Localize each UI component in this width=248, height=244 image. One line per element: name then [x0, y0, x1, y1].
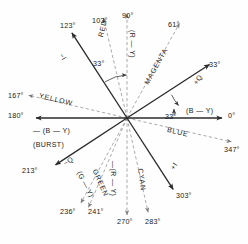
- label-burst: (BURST): [33, 141, 64, 148]
- label-deg-123: 123°: [60, 22, 76, 29]
- label-deg-236: 236°: [60, 208, 76, 215]
- label-deg-61: 61°: [168, 21, 179, 28]
- label-by-positive: (B — Y): [186, 107, 214, 114]
- diagram-canvas: [0, 0, 248, 244]
- label-deg-0: 0°: [228, 112, 235, 119]
- vector-i-neg-123: [72, 33, 127, 118]
- label-deg-33-upper-right: 33°: [209, 61, 220, 68]
- label-arc-33-lower: 33°: [165, 113, 176, 120]
- arc-33-lower: [172, 95, 179, 106]
- label-arc-33-upper: 33°: [93, 60, 104, 67]
- label-deg-180: 180°: [8, 112, 24, 119]
- label-deg-213: 213°: [22, 167, 38, 174]
- label-deg-90: 90°: [122, 12, 133, 19]
- vectorscope-diagram: 103° RED 90° (R — Y) 123° −I 61° MAGENTA…: [0, 0, 248, 244]
- label-deg-303: 303°: [176, 192, 192, 199]
- label-ry-positive: (R — Y): [129, 30, 136, 58]
- label-deg-283: 283°: [145, 218, 161, 225]
- label-deg-167: 167°: [8, 92, 24, 99]
- arc-33-upper: [105, 75, 126, 82]
- axis-cyan-283: [127, 118, 148, 212]
- axis-red-103: [104, 18, 127, 118]
- label-deg-270: 270°: [117, 218, 133, 225]
- label-deg-241: 241°: [88, 208, 104, 215]
- label-by-negative: — (B — Y): [33, 127, 70, 134]
- label-deg-347: 347°: [224, 146, 240, 153]
- label-ry-negative: —(R — Y): [110, 161, 117, 196]
